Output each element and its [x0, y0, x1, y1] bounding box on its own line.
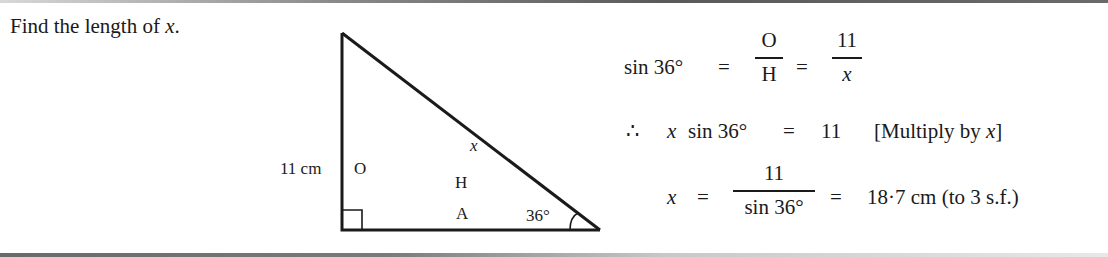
bottom-rule	[0, 253, 1108, 257]
note-text: [Multiply by	[874, 119, 986, 143]
line2-eq: =	[783, 121, 795, 142]
triangle-hypotenuse	[342, 33, 600, 230]
frac-denominator: H	[755, 59, 783, 85]
frac-numerator: 11	[832, 30, 862, 57]
therefore-symbol: ∴	[626, 121, 639, 142]
label-adjacent: A	[456, 205, 468, 222]
fraction-11-over-sin36: 11 sin 36°	[733, 163, 815, 218]
note-close: ]	[995, 119, 1002, 143]
angle-arc	[570, 213, 578, 230]
line2-var: x	[667, 121, 676, 142]
line3-eq: =	[697, 187, 709, 208]
frac-denominator: sin 36°	[733, 192, 815, 218]
note-variable: x	[986, 119, 995, 143]
line1-eq: =	[718, 57, 730, 78]
line1-eq2: =	[796, 57, 808, 78]
line2-expr: sin 36°	[688, 121, 747, 142]
fraction-o-over-h: O H	[755, 30, 783, 85]
angle-label: 36°	[526, 207, 550, 224]
frac-numerator: O	[755, 30, 783, 57]
line2-note: [Multiply by x]	[874, 121, 1002, 142]
final-result: 18·7 cm (to 3 s.f.)	[867, 187, 1019, 208]
line2-rhs: 11	[821, 121, 841, 142]
label-hypotenuse: H	[455, 174, 467, 191]
frac-denominator: x	[832, 59, 862, 85]
label-opposite: O	[354, 160, 366, 177]
right-angle-marker	[342, 210, 362, 230]
fraction-11-over-x: 11 x	[832, 30, 862, 85]
side-length-label: 11 cm	[280, 160, 321, 177]
line1-lhs: sin 36°	[624, 57, 683, 78]
frac-numerator: 11	[733, 163, 815, 190]
line3-var: x	[667, 187, 676, 208]
line3-eq2: =	[830, 187, 842, 208]
label-hyp-variable: x	[470, 137, 478, 154]
